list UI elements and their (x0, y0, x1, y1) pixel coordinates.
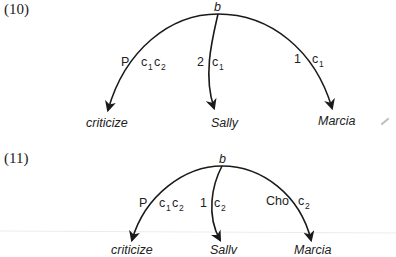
stray-mark-icon (382, 119, 388, 124)
edge-left-label: 2 (197, 55, 204, 69)
subscript: 2 (305, 201, 310, 211)
example-number: (11) (4, 150, 28, 167)
edge-right-label: c (159, 196, 165, 210)
background-rule (0, 231, 396, 233)
edge-left-label: 1 (200, 196, 207, 210)
example-number: (10) (4, 1, 29, 18)
subscript: 1 (148, 62, 153, 72)
diagram-10: (10) b P c 1 c 2 2 c 1 1 c 1 criticize S… (4, 0, 356, 130)
edge-right-label: c (154, 55, 160, 69)
diagram-11: (11) b P c 1 c 2 1 c 2 Cho c 2 criticize… (4, 150, 332, 257)
edge-left-label: 1 (294, 52, 301, 66)
target-node-sally: Sallv (210, 243, 238, 257)
subscript: 1 (219, 62, 224, 72)
target-node-criticize: criticize (86, 116, 128, 130)
subscript: 2 (179, 203, 184, 213)
edge-right-label: c (214, 196, 220, 210)
edge-right-label: c (298, 194, 304, 208)
subscript: 1 (319, 59, 324, 69)
root-node: b (219, 152, 226, 166)
target-node-marcia: Marcia (294, 243, 332, 257)
edge-left-label: Cho (266, 194, 289, 208)
root-node: b (214, 0, 221, 14)
subscript: 2 (221, 203, 226, 213)
dependency-diagrams: (10) b P c 1 c 2 2 c 1 1 c 1 criticize S… (0, 0, 396, 257)
subscript: 1 (166, 203, 171, 213)
target-node-criticize: criticize (111, 243, 153, 257)
edge-right-label: c (141, 55, 147, 69)
target-node-marcia: Marcia (318, 114, 356, 128)
edge-left-label: P (121, 55, 129, 69)
target-node-sally: Sally (211, 116, 239, 130)
edge-right-label: c (172, 196, 178, 210)
edge-right-label: c (312, 52, 318, 66)
edge-right-label: c (212, 55, 218, 69)
subscript: 2 (161, 62, 166, 72)
edge-left-label: P (139, 196, 147, 210)
